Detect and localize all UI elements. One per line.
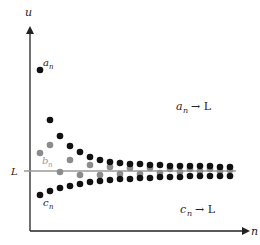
a-sequence-point (217, 164, 224, 171)
a-sequence-point (87, 154, 94, 161)
y-axis-label: u (25, 6, 32, 19)
c-sequence-point (77, 181, 84, 188)
a-sequence-point (227, 164, 234, 171)
limit-label: L (10, 166, 18, 177)
svg-text:→ L: → L (191, 100, 212, 113)
a-sequence-point (187, 163, 194, 170)
a-sequence-point (167, 163, 174, 170)
a-sequence-point (197, 163, 204, 170)
a-sequence-point (157, 162, 164, 169)
b-sequence-point (47, 142, 54, 149)
b-sequence-point (67, 157, 74, 164)
c-sequence-point (207, 173, 214, 180)
c-sequence-point (47, 188, 54, 195)
b-sequence-dots (37, 142, 234, 179)
a-sequence-point (117, 160, 124, 167)
svg-text:n: n (183, 106, 188, 115)
c-sequence-point (157, 174, 164, 181)
b-seq-label: b n (42, 155, 53, 169)
a-seq-label: a n (43, 57, 54, 71)
c-sequence-point (227, 173, 234, 180)
b-sequence-point (57, 169, 64, 176)
a-sequence-point (207, 163, 214, 170)
c-sequence-point (137, 175, 144, 182)
a-sequence-point (137, 161, 144, 168)
c-sequence-point (197, 173, 204, 180)
c-sequence-point (97, 178, 104, 185)
c-sequence-dots (37, 173, 234, 199)
a-sequence-point (127, 161, 134, 168)
a-convergence-label: a n → L (176, 100, 212, 115)
svg-text:c: c (180, 203, 186, 216)
c-sequence-point (147, 175, 154, 182)
a-sequence-point (147, 162, 154, 169)
svg-text:n: n (187, 209, 192, 218)
a-sequence-point (47, 117, 54, 124)
svg-text:n: n (49, 63, 54, 71)
c-sequence-point (187, 173, 194, 180)
c-sequence-point (57, 185, 64, 192)
c-sequence-point (117, 176, 124, 183)
a-sequence-point (107, 159, 114, 166)
b-sequence-point (97, 172, 104, 179)
a-sequence-point (77, 149, 84, 156)
c-sequence-point (217, 173, 224, 180)
a-sequence-point (97, 157, 104, 164)
c-seq-label: c n (43, 197, 54, 211)
svg-text:n: n (48, 161, 53, 169)
b-sequence-point (77, 172, 84, 179)
svg-text:n: n (49, 203, 54, 211)
a-sequence-point (57, 133, 64, 140)
c-sequence-point (67, 183, 74, 190)
a-sequence-point (67, 143, 74, 150)
x-axis-label: n (251, 225, 258, 238)
c-sequence-point (167, 174, 174, 181)
b-sequence-point (87, 162, 94, 169)
convergence-diagram: u n L a n b n c n a n → L c n → L (0, 0, 260, 245)
svg-text:a: a (176, 100, 183, 113)
c-sequence-point (107, 177, 114, 184)
svg-text:→ L: → L (195, 203, 216, 216)
a-sequence-dots (37, 67, 234, 171)
c-sequence-point (127, 176, 134, 183)
a-sequence-point (177, 163, 184, 170)
c-sequence-point (177, 174, 184, 181)
c-convergence-label: c n → L (180, 203, 216, 218)
c-sequence-point (87, 179, 94, 186)
